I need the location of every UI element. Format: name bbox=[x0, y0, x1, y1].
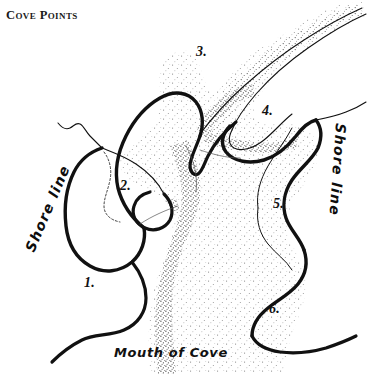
mouth-of-cove-label: Mouth of Cove bbox=[114, 345, 228, 360]
point-marker-4[interactable]: 4. bbox=[262, 103, 273, 119]
upper-inlet-channel bbox=[198, 4, 364, 142]
point-marker-2[interactable]: 2. bbox=[120, 178, 131, 194]
cove-points-map-page: Cove Points bbox=[0, 0, 370, 375]
point-marker-6[interactable]: 6. bbox=[269, 301, 280, 317]
point-marker-3[interactable]: 3. bbox=[196, 44, 207, 60]
point-marker-1[interactable]: 1. bbox=[84, 275, 95, 291]
point-marker-5[interactable]: 5. bbox=[273, 196, 284, 212]
